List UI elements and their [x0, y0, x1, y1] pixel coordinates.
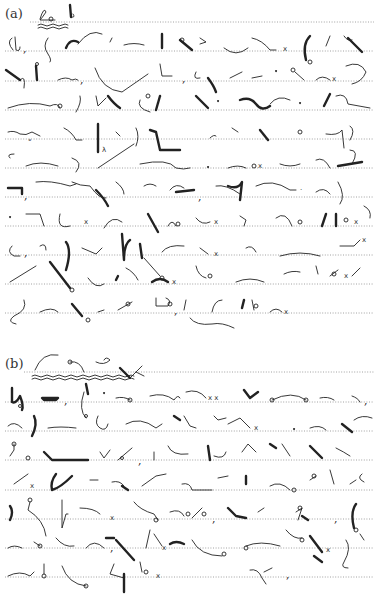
svg-text:x: x: [162, 544, 166, 552]
svg-text:,: ,: [334, 512, 338, 525]
svg-text:x: x: [84, 218, 88, 226]
svg-text:,: ,: [138, 454, 142, 467]
svg-text:,: ,: [364, 394, 368, 407]
svg-text:,: ,: [23, 42, 27, 55]
svg-text:x: x: [362, 236, 366, 244]
svg-text:x: x: [258, 162, 262, 170]
section-a-text: , x , , x: [6, 32, 370, 328]
svg-text:,: ,: [24, 246, 28, 259]
svg-text:λ: λ: [102, 146, 106, 154]
svg-text:x: x: [214, 250, 218, 258]
svg-text:x: x: [283, 45, 287, 53]
svg-text:°: °: [28, 138, 32, 146]
svg-text:,: ,: [110, 541, 114, 554]
svg-text:x: x: [344, 272, 348, 280]
svg-text:x: x: [110, 514, 114, 522]
svg-text:x: x: [326, 546, 330, 554]
svg-text:x: x: [332, 75, 336, 83]
svg-text:,: ,: [286, 568, 290, 581]
svg-text:,: ,: [212, 512, 216, 525]
svg-text:x: x: [214, 218, 218, 226]
svg-text:,: ,: [24, 189, 28, 202]
svg-text:x: x: [172, 278, 176, 286]
shorthand-outlines: , x , , x: [0, 0, 378, 600]
svg-text:,: ,: [182, 72, 186, 85]
svg-text:x: x: [254, 424, 258, 432]
svg-text:x x: x x: [208, 394, 219, 402]
section-a-title-outline: [38, 5, 74, 29]
section-b-title-outline: [32, 355, 144, 380]
section-b-text: , x x , x: [8, 384, 372, 592]
svg-text:x: x: [284, 308, 288, 316]
svg-text:·: ·: [300, 186, 302, 194]
svg-text:,: ,: [174, 304, 178, 317]
svg-text:x: x: [354, 218, 358, 226]
svg-text:x: x: [30, 482, 34, 490]
svg-text:,: ,: [198, 190, 202, 203]
svg-text:,: ,: [64, 394, 68, 407]
svg-text:,: ,: [80, 73, 84, 86]
svg-text:x: x: [156, 572, 160, 580]
